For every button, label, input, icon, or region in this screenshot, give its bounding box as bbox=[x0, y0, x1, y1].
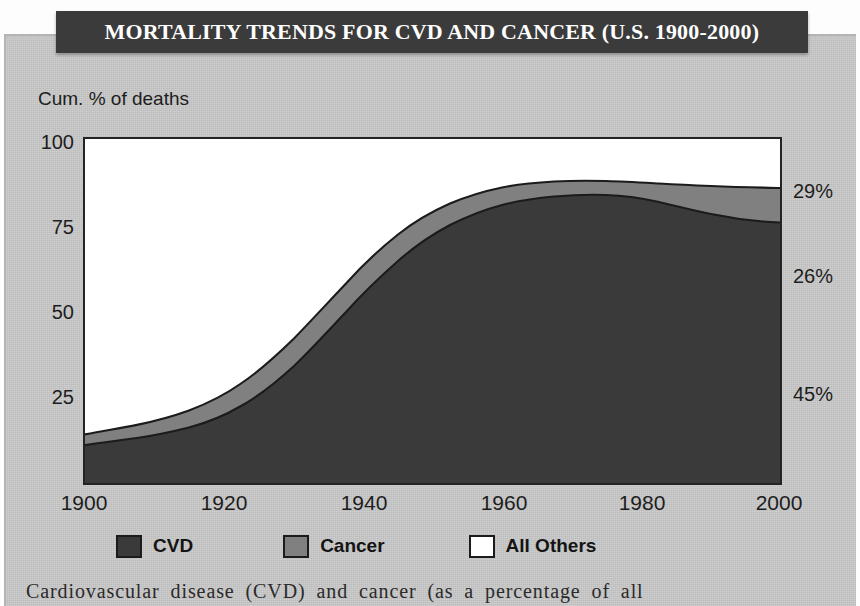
legend-item-cvd[interactable]: CVD bbox=[116, 535, 193, 558]
y-tick-50: 50 bbox=[26, 301, 74, 324]
share-label-cvd: 45% bbox=[793, 383, 833, 406]
legend-swatch-cancer bbox=[283, 535, 309, 558]
chart-legend: CVD Cancer All Others bbox=[83, 530, 783, 562]
legend-swatch-cvd bbox=[116, 535, 142, 558]
x-tick-1940: 1940 bbox=[314, 491, 414, 515]
x-tick-1980: 1980 bbox=[592, 491, 692, 515]
legend-swatch-all-others bbox=[469, 535, 495, 558]
y-tick-25: 25 bbox=[26, 386, 74, 409]
figure-caption: Cardiovascular disease (CVD) and cancer … bbox=[26, 578, 826, 605]
share-label-cancer: 26% bbox=[793, 265, 833, 288]
x-tick-labels: 1900 1920 1940 1960 1980 2000 bbox=[0, 491, 860, 521]
x-tick-1920: 1920 bbox=[174, 491, 274, 515]
x-tick-1900: 1900 bbox=[34, 491, 134, 515]
chart-figure: MORTALITY TRENDS FOR CVD AND CANCER (U.S… bbox=[0, 0, 860, 606]
legend-item-cancer[interactable]: Cancer bbox=[283, 535, 384, 558]
chart-title: MORTALITY TRENDS FOR CVD AND CANCER (U.S… bbox=[105, 20, 760, 45]
x-tick-1960: 1960 bbox=[454, 491, 554, 515]
share-label-all-others: 29% bbox=[793, 180, 833, 203]
y-tick-75: 75 bbox=[26, 216, 74, 239]
chart-title-bar: MORTALITY TRENDS FOR CVD AND CANCER (U.S… bbox=[56, 11, 808, 53]
legend-label-all-others: All Others bbox=[506, 535, 597, 557]
legend-item-all-others[interactable]: All Others bbox=[469, 535, 597, 558]
plot-area bbox=[83, 137, 782, 485]
stacked-area-svg bbox=[85, 139, 780, 483]
x-tick-2000: 2000 bbox=[729, 491, 829, 515]
legend-label-cvd: CVD bbox=[153, 535, 193, 557]
y-tick-100: 100 bbox=[26, 131, 74, 154]
legend-label-cancer: Cancer bbox=[320, 535, 384, 557]
